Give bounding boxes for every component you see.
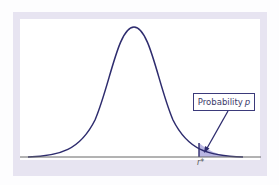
pointer-arrow bbox=[206, 111, 228, 150]
bell-curve bbox=[28, 27, 243, 157]
label-text: Probability bbox=[198, 97, 243, 107]
critical-value-label: r* bbox=[197, 158, 204, 167]
probability-label: Probability p bbox=[193, 93, 255, 111]
label-variable: p bbox=[245, 97, 250, 107]
